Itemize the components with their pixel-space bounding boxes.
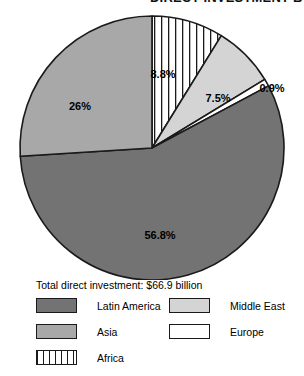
legend-label-latin-america: Latin America (97, 300, 161, 312)
legend-item-latin-america: Latin America (36, 296, 161, 315)
pie-label-africa: 8.8% (150, 68, 175, 80)
pie-chart-svg: 8.8%7.5%0.9%56.8%26% (0, 8, 304, 280)
pie-slice-asia (20, 16, 152, 156)
pie-label-middle-east: 7.5% (205, 92, 230, 104)
legend-label-europe: Europe (230, 326, 264, 338)
pie-chart-figure: DIRECT INVESTMENT BY REGION 1995 8.8%7.5… (0, 0, 304, 376)
legend-swatch-europe (169, 324, 210, 339)
legend-item-middle-east: Middle East (169, 296, 285, 315)
legend-item-europe: Europe (169, 322, 264, 341)
legend-label-middle-east: Middle East (230, 300, 285, 312)
legend-swatch-asia (36, 324, 77, 339)
legend-swatch-middle-east (169, 298, 210, 313)
pie-chart: 8.8%7.5%0.9%56.8%26% (0, 8, 304, 280)
pie-label-latin-america: 56.8% (144, 229, 175, 241)
legend-total-investment: Total direct investment: $66.9 billion (36, 279, 202, 291)
figure-title-text: DIRECT INVESTMENT BY REGION 1995 (150, 0, 304, 5)
pie-label-europe: 0.9% (259, 82, 284, 94)
legend-item-africa: Africa (36, 348, 124, 367)
legend-label-asia: Asia (97, 326, 117, 338)
chart-legend: Total direct investment: $66.9 billion L… (36, 279, 286, 371)
legend-label-africa: Africa (97, 352, 124, 364)
legend-swatch-latin-america (36, 298, 77, 313)
legend-swatch-africa (36, 350, 77, 365)
pie-label-asia: 26% (69, 100, 91, 112)
legend-item-asia: Asia (36, 322, 117, 341)
